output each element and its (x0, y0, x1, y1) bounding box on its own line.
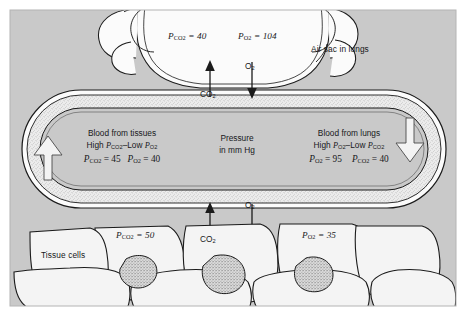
tissue-cells-caption: Tissue cells (41, 250, 85, 260)
tissue-cell-pco2-label: PCO2 = 50 (116, 230, 154, 241)
blood-from-lungs-values: PO2 = 95PCO2 = 40 (288, 153, 410, 167)
gas-exchange-figure: PCO2 = 40 PO2 = 104 Air sac in lungs O2 … (0, 0, 467, 323)
blood-from-tissues-title: Blood from tissues (62, 127, 182, 139)
pressure-label-line2: in mm Hg (192, 144, 282, 156)
lung-co2-gas-label: CO2 (200, 89, 216, 99)
tissue-o2-gas-label: O2 (245, 200, 255, 210)
blood-from-tissues-values: PCO2 = 45PO2 = 40 (62, 153, 182, 167)
tissue-cell-po2-label: PO2 = 35 (302, 230, 336, 241)
tissue-co2-gas-label: CO2 (200, 234, 216, 244)
lung-po2-label: PO2 = 104 (238, 31, 277, 42)
tissue-cell-po2-value: = 35 (316, 230, 336, 240)
blood-from-lungs-highlow: High PO2–Low PCO2 (288, 139, 410, 152)
blood-from-lungs-title: Blood from lungs (288, 127, 410, 139)
pressure-label-line1: Pressure (192, 132, 282, 144)
cell-nucleus-1 (120, 255, 157, 288)
lung-pco2-sub: CO (174, 34, 183, 41)
lung-pco2-value: = 40 (186, 31, 206, 41)
pressure-units-block: Pressure in mm Hg (192, 132, 282, 157)
cell-nucleus-2 (202, 255, 245, 294)
lung-pco2-label: PCO2 = 40 (168, 31, 206, 42)
cell-nucleus-3 (295, 257, 334, 292)
tissue-cell-row2-1 (14, 268, 130, 319)
blood-from-lungs-block: Blood from lungs High PO2–Low PCO2 PO2 =… (288, 127, 410, 167)
tissue-cell-pco2-value: = 50 (134, 230, 154, 240)
lung-po2-value: = 104 (252, 31, 277, 41)
tissue-cells-group (14, 224, 456, 318)
lung-o2-gas-label: O2 (245, 61, 255, 71)
blood-from-tissues-highlow: High PCO2–Low PO2 (62, 139, 182, 152)
tissue-cell-row2-4 (371, 270, 456, 319)
air-sac-caption: Air sac in lungs (311, 44, 369, 54)
blood-from-tissues-block: Blood from tissues High PCO2–Low PO2 PCO… (62, 127, 182, 167)
